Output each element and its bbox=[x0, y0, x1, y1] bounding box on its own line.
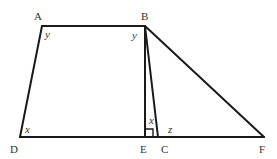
right-angle-marker bbox=[145, 129, 153, 137]
point-label-C: C bbox=[161, 143, 168, 155]
point-label-E: E bbox=[140, 143, 147, 155]
point-label-F: F bbox=[259, 143, 265, 155]
point-label-A: A bbox=[34, 10, 42, 22]
point-label-B: B bbox=[141, 10, 148, 22]
angle-label-A: y bbox=[44, 28, 50, 40]
segment-AD bbox=[20, 26, 42, 137]
angle-label-B: y bbox=[131, 29, 137, 41]
segment-BF bbox=[145, 26, 264, 137]
angle-label-E: x bbox=[148, 114, 154, 126]
angle-label-C: z bbox=[167, 123, 173, 135]
angle-label-D: x bbox=[24, 123, 30, 135]
point-label-D: D bbox=[10, 143, 18, 155]
geometry-diagram: A B D E C F y y x x z bbox=[0, 0, 277, 159]
